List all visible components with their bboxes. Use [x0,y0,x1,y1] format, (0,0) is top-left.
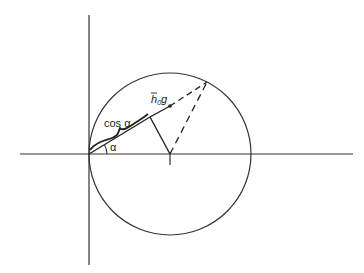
dashed-ray [170,82,207,106]
hbar-label: h0g [151,93,168,106]
hbar-g-letter: g [161,93,168,105]
diagram-canvas: cos α α h0g [0,0,364,273]
cos-alpha-label: cos α [104,117,131,129]
alpha-label: α [110,141,117,153]
perpendicular-line [150,117,170,154]
hbar-g-segment [150,106,170,117]
hbar-g-dot [168,104,172,108]
alpha-arc [105,145,108,154]
dashed-radius [170,82,207,154]
